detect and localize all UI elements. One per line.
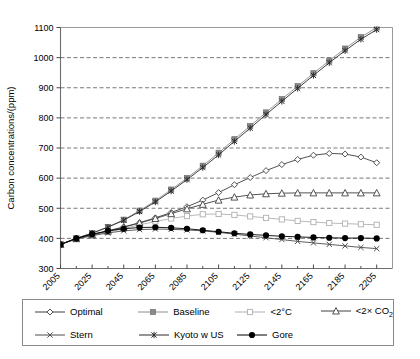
y-tick-label: 300: [38, 264, 53, 274]
data-point-filled-circle: [136, 224, 142, 230]
data-point-open-square: [342, 221, 347, 226]
chart-figure: 3004005006007008009001000110020052025204…: [0, 0, 420, 359]
x-tick-label: 2025: [72, 271, 93, 292]
y-tick-label: 600: [38, 173, 53, 183]
data-point-open-diamond: [216, 190, 222, 196]
data-point-open-diamond: [247, 175, 253, 181]
legend-label-baseline: Baseline: [170, 306, 209, 317]
x-tick-label: 2085: [167, 271, 188, 292]
data-point-filled-circle: [247, 231, 253, 237]
legend-item-under-2c[interactable]: <2°C: [233, 306, 318, 318]
x-tick-label: 2125: [230, 271, 251, 292]
legend-row-2: Stern Kyoto w US Gore: [23, 323, 393, 346]
legend-label-stern: Stern: [67, 329, 93, 340]
data-point-open-square: [295, 218, 300, 223]
data-point-filled-circle: [73, 235, 79, 241]
y-tick-label: 500: [38, 204, 53, 214]
y-axis-title-text: Carbon concentrations/(ppm): [5, 86, 16, 209]
data-point-open-diamond: [326, 150, 332, 156]
data-point-open-diamond: [358, 154, 364, 160]
data-point-filled-circle: [358, 235, 364, 241]
data-point-open-square: [248, 309, 253, 314]
x-tick-label: 2185: [325, 271, 346, 292]
data-point-filled-square: [151, 309, 156, 314]
data-point-filled-circle: [184, 226, 190, 232]
legend-label-optimal: Optimal: [67, 306, 103, 317]
data-point-filled-circle: [310, 234, 316, 240]
x-tick-label: 2165: [294, 271, 315, 292]
x-tick-label: 2065: [136, 271, 157, 292]
legend-label-under-2c: <2°C: [267, 306, 292, 317]
x-tick-label: 2045: [104, 271, 125, 292]
data-point-filled-circle: [105, 228, 111, 234]
legend-item-gore[interactable]: Gore: [235, 329, 293, 341]
data-point-open-square: [279, 217, 284, 222]
legend-marker-filled-circle: [235, 329, 269, 341]
x-tick-label: 2205: [357, 271, 378, 292]
x-tick-label: 2105: [199, 271, 220, 292]
data-point-open-square: [216, 211, 221, 216]
chart-legend: Optimal Baseline <2°C <2× CO2 Stern: [22, 299, 394, 346]
data-point-filled-circle: [231, 230, 237, 236]
data-point-open-square: [248, 214, 253, 219]
data-point-open-square: [232, 212, 237, 217]
legend-marker-open-triangle: [319, 305, 353, 317]
data-point-open-diamond: [279, 162, 285, 168]
data-point-open-square: [374, 222, 379, 227]
data-point-open-diamond: [231, 182, 237, 188]
data-point-open-diamond: [310, 152, 316, 158]
data-point-open-diamond: [342, 151, 348, 157]
data-point-filled-circle: [89, 231, 95, 237]
x-tick-label: 2005: [41, 271, 62, 292]
y-axis-title: Carbon concentrations/(ppm): [5, 86, 16, 209]
y-tick-label: 900: [38, 83, 53, 93]
data-point-open-diamond: [295, 156, 301, 162]
legend-item-optimal[interactable]: Optimal: [33, 306, 136, 318]
legend-marker-cross-x: [33, 329, 67, 341]
legend-marker-filled-square: [136, 306, 170, 318]
y-tick-label: 800: [38, 113, 53, 123]
data-point-open-square: [358, 222, 363, 227]
legend-label-under-2x-co2: <2× CO2: [353, 305, 393, 318]
data-point-filled-circle: [168, 225, 174, 231]
data-point-filled-circle: [374, 235, 380, 241]
legend-item-stern[interactable]: Stern: [33, 329, 137, 341]
data-series-layer: [57, 25, 380, 251]
y-tick-label: 700: [38, 143, 53, 153]
data-point-filled-circle: [121, 226, 127, 232]
data-point-filled-circle: [263, 232, 269, 238]
data-point-filled-circle: [215, 229, 221, 235]
data-point-open-square: [200, 212, 205, 217]
gridlines: [61, 28, 393, 239]
data-point-open-square: [184, 213, 189, 218]
data-point-filled-circle: [342, 235, 348, 241]
y-tick-label: 1100: [34, 23, 53, 33]
data-point-open-diamond: [374, 160, 380, 166]
data-point-filled-circle: [326, 235, 332, 241]
legend-item-baseline[interactable]: Baseline: [136, 306, 233, 318]
legend-label-kyoto-w-us: Kyoto w US: [171, 329, 224, 340]
data-point-open-diamond: [263, 168, 269, 174]
data-point-filled-circle: [295, 234, 301, 240]
data-point-open-square: [311, 220, 316, 225]
y-tick-label: 1000: [33, 53, 53, 63]
legend-marker-open-diamond: [33, 306, 67, 318]
data-point-open-diamond: [47, 309, 53, 315]
legend-item-kyoto-w-us[interactable]: Kyoto w US: [137, 329, 235, 341]
legend-marker-open-square: [233, 306, 267, 318]
legend-label-co2-subscript: 2: [389, 311, 393, 318]
legend-label-gore: Gore: [269, 329, 293, 340]
data-point-open-square: [263, 215, 268, 220]
data-point-filled-circle: [200, 227, 206, 233]
plot-area: 3004005006007008009001000110020052025204…: [0, 0, 420, 300]
data-point-filled-circle: [249, 331, 255, 337]
data-point-filled-circle: [279, 233, 285, 239]
chart-svg: 3004005006007008009001000110020052025204…: [0, 0, 420, 300]
x-tick-label: 2145: [262, 271, 283, 292]
data-point-open-square: [327, 220, 332, 225]
data-point-filled-circle: [57, 241, 63, 247]
data-point-filled-circle: [152, 224, 158, 230]
y-tick-label: 400: [38, 234, 53, 244]
legend-item-under-2x-co2[interactable]: <2× CO2: [319, 305, 393, 318]
legend-marker-asterisk: [137, 329, 171, 341]
